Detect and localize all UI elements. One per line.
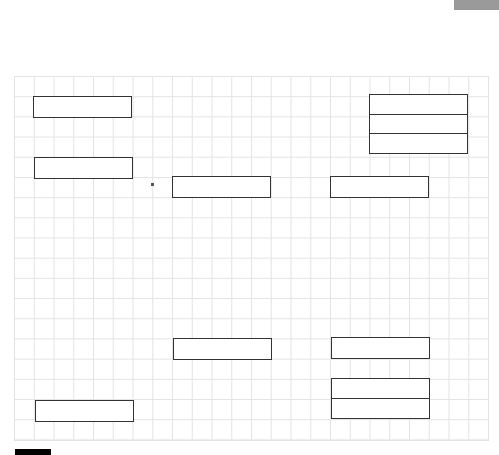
diagram-box[interactable]	[172, 176, 271, 198]
stacked-box-group[interactable]	[331, 378, 430, 419]
diagram-box[interactable]	[173, 338, 272, 360]
stacked-box-group[interactable]	[369, 94, 468, 154]
diagram-box[interactable]	[331, 337, 430, 359]
cursor-dot	[151, 183, 154, 186]
diagram-box[interactable]	[330, 176, 429, 198]
stack-cell[interactable]	[369, 94, 468, 115]
diagram-box[interactable]	[34, 157, 133, 179]
stack-cell[interactable]	[331, 398, 430, 419]
stack-cell[interactable]	[331, 378, 430, 399]
top-right-bar	[454, 0, 499, 10]
stack-cell[interactable]	[369, 114, 468, 135]
diagram-box[interactable]	[35, 400, 134, 422]
bottom-black-bar	[15, 449, 51, 455]
stack-cell[interactable]	[369, 133, 468, 154]
diagram-box[interactable]	[33, 96, 132, 118]
